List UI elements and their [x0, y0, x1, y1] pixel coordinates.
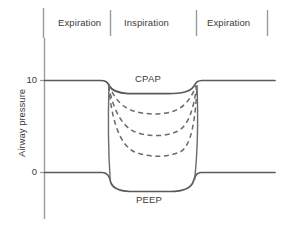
cpap-label: CPAP [135, 73, 161, 84]
phase-label-expiration-1: Expiration [58, 17, 101, 28]
dashed-curve-1 [109, 84, 197, 114]
phase-label-inspiration: Inspiration [124, 17, 169, 28]
y-axis-title: Airway pressure [16, 89, 27, 157]
phase-label-expiration-2: Expiration [207, 17, 250, 28]
peep-curve [45, 173, 276, 192]
airway-pressure-figure: Expiration Inspiration Expiration 10 0 A… [0, 0, 285, 233]
peep-label: PEEP [136, 194, 162, 205]
y-tick-label-10: 10 [17, 74, 37, 85]
y-tick-label-0: 0 [17, 166, 37, 177]
